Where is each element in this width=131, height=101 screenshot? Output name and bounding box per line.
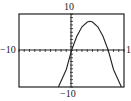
y-min-label: −10 — [60, 89, 76, 99]
parabola-curve — [58, 21, 121, 87]
x-min-label: −10 — [0, 45, 16, 55]
y-max-label: 10 — [64, 2, 74, 12]
x-max-label: 1 — [126, 45, 131, 55]
plot — [0, 0, 131, 101]
